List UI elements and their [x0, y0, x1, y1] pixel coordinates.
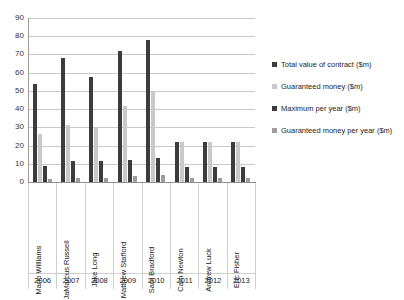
- y-axis-tick-label: 50: [2, 87, 24, 95]
- year-label: 2007: [56, 273, 84, 289]
- category-cell: Andrew Luck: [198, 183, 226, 274]
- bar: [213, 167, 217, 182]
- bar: [236, 142, 240, 182]
- bar-group: [28, 18, 56, 182]
- category-cell: Eric Fisher: [227, 183, 256, 274]
- year-label: 2009: [113, 273, 141, 289]
- category-cell: JaMarcus Russell: [56, 183, 84, 274]
- legend-label: Maximum per year ($m): [281, 104, 361, 113]
- bar: [190, 178, 194, 182]
- year-label: 2011: [170, 273, 198, 289]
- bar: [180, 142, 184, 182]
- bar: [208, 142, 212, 182]
- year-label: 2012: [198, 273, 226, 289]
- bar: [94, 127, 98, 182]
- bar: [33, 84, 37, 182]
- y-axis-tick-label: 20: [2, 142, 24, 150]
- year-label: 2010: [142, 273, 170, 289]
- bar: [151, 91, 155, 182]
- bar: [161, 175, 165, 182]
- bar: [146, 40, 150, 182]
- bar: [61, 58, 65, 182]
- y-axis-tick-label: 40: [2, 105, 24, 113]
- bar: [241, 167, 245, 182]
- bar: [66, 125, 70, 182]
- year-label: 2008: [85, 273, 113, 289]
- category-cell: Mario Williams: [28, 183, 56, 274]
- bar: [104, 178, 108, 182]
- legend-label: Total value of contract ($m): [281, 60, 371, 69]
- bar: [185, 167, 189, 182]
- bar: [175, 142, 179, 182]
- bar: [118, 51, 122, 182]
- category-cell: Matthew Stafford: [113, 183, 141, 274]
- bar: [48, 179, 52, 182]
- category-cell: Jake Long: [85, 183, 113, 274]
- bar: [38, 134, 42, 182]
- year-label: 2006: [28, 273, 56, 289]
- bar-groups: [28, 18, 255, 182]
- legend-swatch-icon: [272, 62, 277, 67]
- bar: [123, 106, 127, 182]
- bar: [76, 178, 80, 182]
- y-axis-tick-label: 90: [2, 14, 24, 22]
- legend-item: Total value of contract ($m): [272, 60, 402, 69]
- legend-item: Guaranteed money ($m): [272, 82, 402, 91]
- y-axis-tick-label: 70: [2, 50, 24, 58]
- bar: [43, 166, 47, 182]
- chart-legend: Total value of contract ($m)Guaranteed m…: [272, 60, 402, 148]
- bar-group: [198, 18, 226, 182]
- year-labels-row: 20062007200820092010201120122013: [28, 273, 256, 289]
- bar: [133, 176, 137, 182]
- category-label: JaMarcus Russell: [63, 240, 71, 299]
- category-cell: Sam Bradford: [142, 183, 170, 274]
- legend-label: Guaranteed money ($m): [281, 82, 363, 91]
- bar: [156, 158, 160, 182]
- bar: [231, 142, 235, 182]
- legend-item: Maximum per year ($m): [272, 104, 402, 113]
- legend-item: Guaranteed money per year ($m): [272, 126, 402, 135]
- category-label: Matthew Stafford: [120, 242, 128, 299]
- bar: [218, 178, 222, 182]
- bar-group: [170, 18, 198, 182]
- y-axis-tick-label: 0: [2, 178, 24, 186]
- category-labels-row: Mario WilliamsJaMarcus RussellJake LongM…: [28, 183, 256, 273]
- year-label: 2013: [227, 273, 256, 289]
- legend-swatch-icon: [272, 84, 277, 89]
- bar: [203, 142, 207, 182]
- legend-label: Guaranteed money per year ($m): [281, 126, 392, 135]
- bar: [89, 77, 93, 182]
- category-cell: Cam Newton: [170, 183, 198, 274]
- bar-group: [142, 18, 170, 182]
- bar: [128, 160, 132, 182]
- y-axis-tick-label: 10: [2, 160, 24, 168]
- bar: [246, 178, 250, 182]
- y-axis-tick-label: 60: [2, 69, 24, 77]
- bar-group: [113, 18, 141, 182]
- bar-group: [56, 18, 84, 182]
- bar-group: [85, 18, 113, 182]
- y-axis-tick-label: 80: [2, 32, 24, 40]
- legend-swatch-icon: [272, 128, 277, 133]
- y-axis-tick-label: 30: [2, 123, 24, 131]
- bar: [71, 161, 75, 182]
- bar: [99, 161, 103, 182]
- legend-swatch-icon: [272, 106, 277, 111]
- bar-group: [227, 18, 255, 182]
